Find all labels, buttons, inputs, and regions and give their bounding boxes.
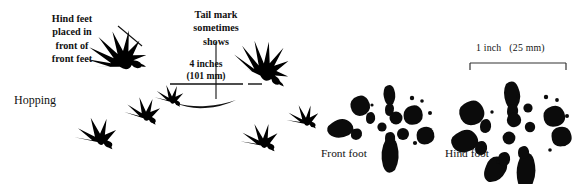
stride-measurement-label: 4 inches (101 mm) [168,58,244,81]
tail-drag-mark [176,100,236,108]
track-front-silhouette-1 [72,114,118,154]
tail-mark-label: Tail mark sometimes shows [170,8,262,48]
hind-foot-label: Hind foot [445,147,489,160]
scale-bar [470,63,566,70]
gait-label-hopping: Hopping [14,93,56,107]
track-identification-figure: Hind feet placed in front of front feet … [0,0,579,184]
scale-bar-label: 1 inch (25 mm) [476,42,579,54]
front-foot-label: Front foot [321,147,367,160]
hind-feet-leader-line [118,26,142,46]
hind-foot-detail-print [451,82,572,184]
track-front-silhouette-2a [123,96,161,127]
hind-feet-placement-label: Hind feet placed in front of front feet [24,12,120,65]
track-front-silhouette-3a [237,120,280,157]
track-front-silhouette-3b [284,102,320,133]
track-front-silhouette-2b [153,83,184,109]
